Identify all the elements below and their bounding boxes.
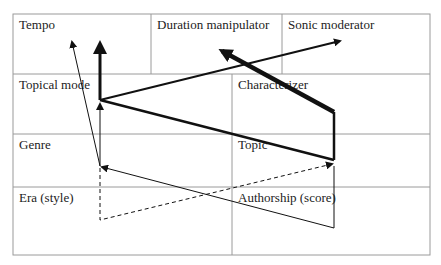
line-topical-to-topic: [100, 100, 334, 160]
arrow-authorship-to-genre: [102, 166, 334, 228]
dashed-era-to-topic: [100, 164, 332, 220]
arrow-genre-to-tempo: [72, 42, 100, 166]
arrow-to-duration-manipulator: [222, 51, 334, 112]
arrows-layer: [0, 0, 441, 265]
arrow-topical-to-sonic: [100, 41, 340, 100]
